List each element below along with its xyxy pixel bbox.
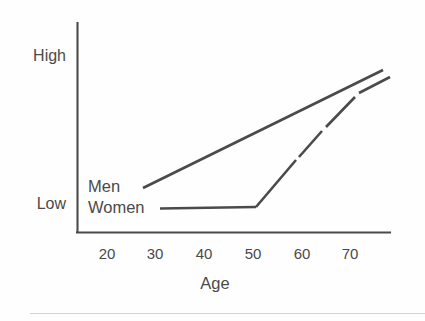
series-label-men: Men xyxy=(88,178,120,195)
chart-figure: High Low Men Women 20 30 40 50 60 70 Age xyxy=(0,0,425,321)
x-tick-label-50: 50 xyxy=(236,246,270,261)
y-axis-label-low: Low xyxy=(8,196,66,212)
x-tick-label-30: 30 xyxy=(138,246,172,261)
series-line-women xyxy=(160,77,390,209)
x-tick-label-20: 20 xyxy=(90,246,124,261)
series-label-women: Women xyxy=(88,199,145,216)
y-axis-label-high: High xyxy=(8,48,66,64)
x-tick-label-60: 60 xyxy=(285,246,319,261)
series-line-men xyxy=(143,70,383,188)
x-tick-label-40: 40 xyxy=(187,246,221,261)
x-axis-title: Age xyxy=(175,275,255,292)
x-tick-label-70: 70 xyxy=(333,246,367,261)
